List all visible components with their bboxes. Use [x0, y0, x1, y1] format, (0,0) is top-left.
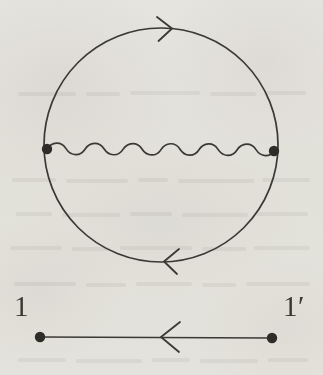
external-propagator-line: [40, 337, 272, 338]
wavy-interaction-line: [47, 143, 274, 155]
endpoint-label-right-base: 1: [283, 290, 298, 322]
endpoint-label-right: 1′: [283, 292, 305, 321]
prime-mark-icon: ′: [298, 290, 305, 322]
loop-vertex-left: [42, 144, 52, 154]
endpoint-label-left: 1: [14, 292, 29, 321]
feynman-diagram-figure: 1 1′: [0, 0, 323, 375]
loop-vertex-right: [269, 146, 279, 156]
diagram-canvas: [0, 0, 323, 375]
propagator-endpoint-right: [267, 333, 277, 343]
propagator-endpoint-left: [35, 332, 45, 342]
